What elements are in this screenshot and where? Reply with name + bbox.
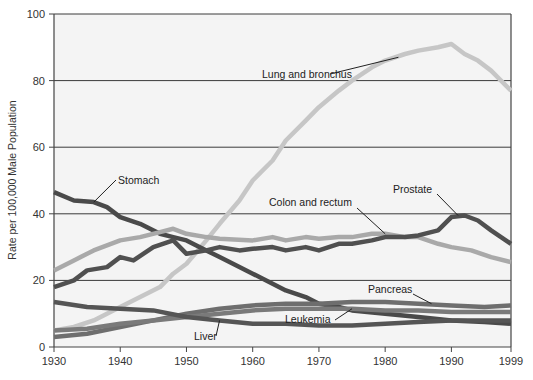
series-label-colon-and-rectum: Colon and rectum (269, 196, 352, 208)
y-tick-label: 20 (33, 274, 45, 286)
series-label-prostate: Prostate (393, 183, 432, 195)
x-tick-label: 1940 (108, 355, 132, 367)
y-tick-label: 100 (27, 8, 45, 20)
y-axis-title: Rate per 100,000 Male Population (6, 100, 18, 260)
x-tick-label: 1990 (439, 355, 463, 367)
y-ticks: 020406080100 (27, 8, 54, 353)
line-chart: 020406080100 193019401950196019701980199… (0, 0, 533, 380)
x-ticks: 19301940195019601970198019901999 (42, 347, 523, 367)
x-tick-label: 1970 (307, 355, 331, 367)
series-label-lung-and-bronchus: Lung and bronchus (262, 68, 352, 80)
series-label-leukemia: Leukemia (285, 313, 331, 325)
x-tick-label: 1960 (240, 355, 264, 367)
series-label-stomach: Stomach (118, 174, 160, 186)
x-tick-label: 1950 (174, 355, 198, 367)
x-tick-label: 1930 (42, 355, 66, 367)
y-tick-label: 80 (33, 75, 45, 87)
series-label-liver: Liver (194, 330, 217, 342)
x-tick-label: 1980 (373, 355, 397, 367)
y-tick-label: 0 (39, 341, 45, 353)
y-tick-label: 40 (33, 208, 45, 220)
x-tick-label: 1999 (499, 355, 523, 367)
series-label-pancreas: Pancreas (368, 283, 412, 295)
y-tick-label: 60 (33, 141, 45, 153)
